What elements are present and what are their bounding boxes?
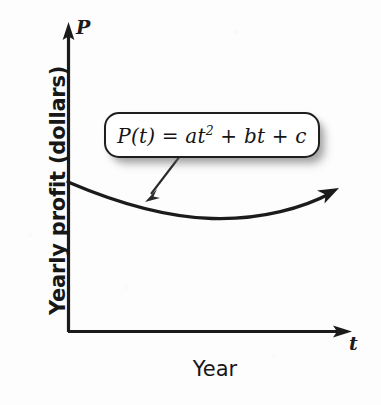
- equation-term2-coefficient: b: [244, 123, 257, 147]
- y-axis-variable-label: P: [76, 18, 90, 37]
- equation-term3-constant: c: [295, 123, 306, 147]
- equation-callout-box: P(t) = at2 + bt + c: [104, 112, 320, 158]
- profit-curve: [68, 182, 330, 219]
- equation-lhs: P(t): [117, 123, 155, 147]
- equation-term2-variable: t: [257, 123, 265, 147]
- curve-arrowhead-icon: [317, 188, 339, 204]
- equation-text: P(t) = at2 + bt + c: [117, 123, 306, 148]
- equation-equals: =: [162, 123, 179, 147]
- equation-term1-coefficient: a: [185, 123, 197, 147]
- x-axis-title: Year: [140, 357, 290, 381]
- y-axis-title: Yearly profit (dollars): [46, 75, 70, 315]
- profit-parabola-figure: P t Yearly profit (dollars) Year P(t) = …: [0, 0, 381, 405]
- x-axis-variable-label: t: [349, 334, 358, 353]
- equation-plus-1: +: [220, 123, 237, 147]
- callout-pointer-line: [151, 156, 180, 194]
- equation-term1-exponent: 2: [206, 123, 214, 138]
- equation-term1-variable: t: [197, 123, 205, 147]
- equation-plus-2: +: [272, 123, 289, 147]
